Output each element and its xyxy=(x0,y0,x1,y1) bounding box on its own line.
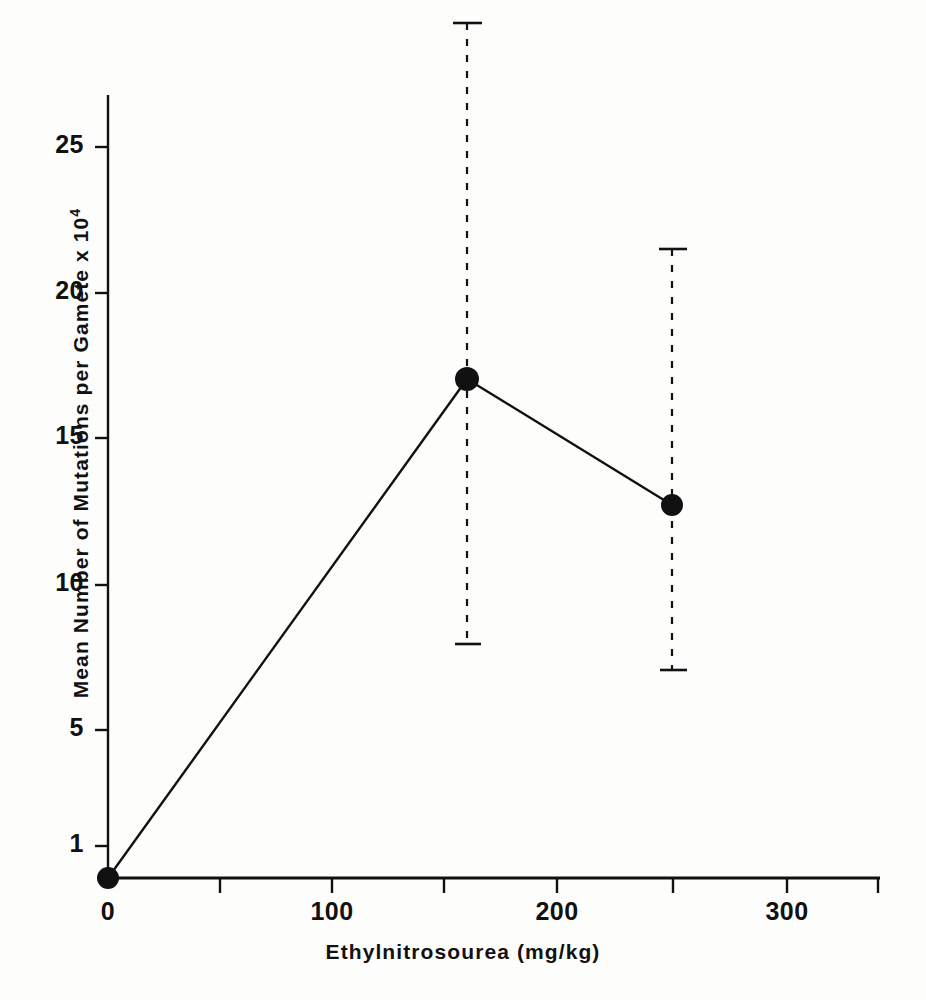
x-tick-label-200: 200 xyxy=(507,897,607,926)
data-line-series-1 xyxy=(108,379,672,878)
y-axis-title-exponent: 4 xyxy=(67,208,83,217)
y-tick-marks xyxy=(95,147,108,846)
x-axis-title-text: Ethylnitrosourea (mg/kg) xyxy=(326,940,601,963)
x-tick-marks xyxy=(220,878,878,893)
data-point-marker[interactable] xyxy=(97,867,119,889)
x-tick-label-100: 100 xyxy=(282,897,382,926)
data-point-marker[interactable] xyxy=(661,494,683,516)
y-axis-title-multiplier: x 10 xyxy=(69,217,92,269)
x-tick-label-0: 0 xyxy=(78,897,138,926)
chart-plot-area xyxy=(0,0,926,1000)
y-axis-title-text: Mean Number of Mutations per Gamete xyxy=(69,269,92,698)
error-bar-250 xyxy=(659,249,687,670)
x-tick-label-300: 300 xyxy=(737,897,837,926)
data-point-marker[interactable] xyxy=(455,367,479,391)
x-axis-title: Ethylnitrosourea (mg/kg) xyxy=(0,940,926,964)
y-axis-title: Mean Number of Mutations per Gamete x 10… xyxy=(67,73,93,833)
error-bar-160 xyxy=(453,23,482,644)
y-tick-label-1: 1 xyxy=(20,829,84,858)
figure-container: 25 20 15 10 5 1 0 100 200 300 Ethylnitro… xyxy=(0,0,926,1000)
